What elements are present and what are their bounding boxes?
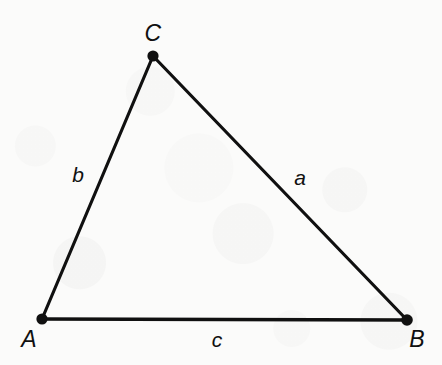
side-label-b: b xyxy=(72,164,84,185)
vertex-label-c: C xyxy=(145,22,162,45)
triangle-vertex-dots xyxy=(36,50,412,325)
vertex-dot-a xyxy=(36,313,47,324)
triangle-drawing xyxy=(0,0,442,365)
side-a-line xyxy=(153,56,407,320)
triangle-figure: C A B b a c xyxy=(0,0,442,365)
side-b-line xyxy=(42,56,153,319)
side-label-a: a xyxy=(294,167,306,188)
vertex-label-b: B xyxy=(409,328,425,351)
vertex-dot-b xyxy=(401,314,413,326)
side-c-line xyxy=(42,319,407,320)
vertex-dot-c xyxy=(147,50,158,61)
vertex-label-a: A xyxy=(21,328,37,351)
triangle-edges xyxy=(42,56,407,320)
side-label-c: c xyxy=(212,329,223,350)
